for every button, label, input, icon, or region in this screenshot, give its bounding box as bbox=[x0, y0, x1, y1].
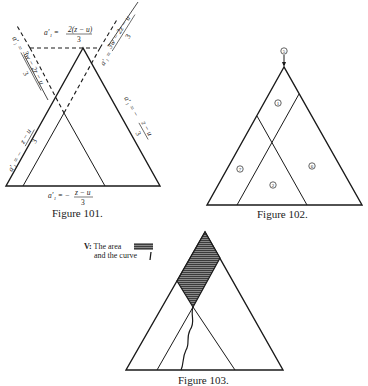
label-upper-right-den: 3 bbox=[123, 32, 133, 40]
label-upper-right-lhs: a′₁ = bbox=[98, 50, 114, 67]
hatched-area bbox=[177, 232, 220, 307]
figure-103-diagram bbox=[126, 232, 283, 370]
figure-101-caption: Figure 101. bbox=[52, 207, 103, 219]
figure-102-diagram bbox=[207, 55, 362, 205]
region-label-right: 6 bbox=[309, 163, 315, 169]
legend-area-text: The area bbox=[94, 242, 122, 251]
label-right-den: 3 bbox=[134, 129, 144, 137]
label-bottom-den: 3 bbox=[81, 198, 85, 207]
inner-triangle bbox=[23, 113, 105, 186]
legend-curve-swatch bbox=[150, 252, 151, 260]
label-upper-left-lhs: a′₁ = bbox=[10, 35, 25, 52]
svg-text:6: 6 bbox=[311, 164, 314, 169]
outer-triangle bbox=[207, 67, 362, 205]
label-right-num: z − u bbox=[139, 119, 155, 138]
region-label-top: 1 bbox=[275, 100, 281, 106]
label-left-num: z − u bbox=[17, 127, 33, 146]
curve bbox=[181, 307, 193, 370]
region-label-apex: 5 bbox=[281, 48, 287, 54]
label-upper-left-den: 3 bbox=[21, 70, 31, 78]
legend-curve-text: and the curve bbox=[94, 251, 137, 260]
svg-text:2: 2 bbox=[272, 183, 275, 188]
region-label-bottom-center: 2 bbox=[270, 182, 276, 188]
label-top-den: 3 bbox=[77, 35, 81, 44]
label-upper-left-num: 3w − 2z − u bbox=[21, 48, 47, 86]
divider-right-to-base bbox=[237, 94, 299, 205]
label-bottom-num: z − u bbox=[74, 188, 91, 197]
figure-103-legend: V: The area and the curve bbox=[84, 242, 137, 260]
label-bottom-lhs: a′₁ = − bbox=[48, 191, 70, 200]
figure-102-region-labels: 5 1 7 2 6 bbox=[237, 48, 315, 188]
label-right-lhs: a′₁ = − bbox=[122, 95, 140, 118]
figure-102-caption: Figure 102. bbox=[257, 208, 308, 220]
svg-text:1: 1 bbox=[277, 101, 280, 106]
divider-left-to-base bbox=[257, 116, 307, 205]
figure-101-labels: a′₁ = 2(z − u) 3 a′₁ = 3w − 2z − u 3 a′₁… bbox=[3, 10, 156, 207]
figure-103-caption: Figure 103. bbox=[178, 374, 229, 386]
legend-line-1: V: The area bbox=[84, 242, 137, 251]
label-top-lhs: a′₁ = bbox=[44, 28, 59, 37]
svg-text:5: 5 bbox=[283, 49, 286, 54]
label-top-num: 2(z − u) bbox=[68, 25, 93, 34]
region-label-left: 7 bbox=[237, 166, 243, 172]
svg-text:7: 7 bbox=[239, 167, 242, 172]
label-left-den: 3 bbox=[29, 137, 39, 145]
legend-line-2: and the curve bbox=[84, 251, 137, 260]
label-left-lhs: a′₁ = − bbox=[6, 149, 24, 172]
legend-prefix: V: bbox=[84, 242, 92, 251]
